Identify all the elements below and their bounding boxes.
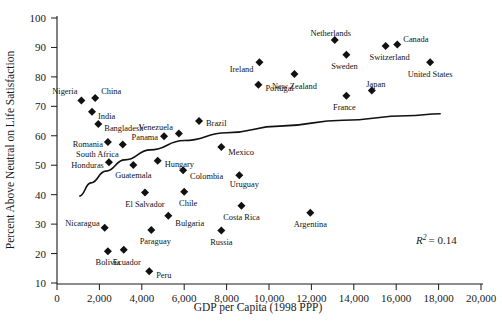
- y-tick-label: 50: [35, 159, 47, 171]
- data-point-label: Guatemala: [115, 171, 152, 180]
- data-point-label: Paraguay: [140, 237, 172, 246]
- data-point-label: Honduras: [71, 161, 104, 170]
- y-axis-title: Percent Above Neutral on Life Satisfacti…: [4, 51, 16, 250]
- data-point-label: South Africa: [76, 150, 119, 159]
- data-point-label: El Salvador: [125, 200, 165, 209]
- data-point-label: Hungary: [165, 160, 195, 169]
- data-point-label: Argentina: [294, 220, 328, 229]
- y-tick-label: 60: [35, 130, 47, 142]
- y-tick-label: 90: [35, 41, 47, 53]
- x-tick-label: 14,000: [339, 292, 370, 304]
- data-point-label: Netherlands: [310, 29, 350, 38]
- y-tick-label: 40: [35, 189, 47, 201]
- data-point-label: Venezuela: [138, 123, 173, 132]
- x-tick-label: 2,000: [87, 292, 112, 304]
- data-point-label: Mexico: [228, 148, 254, 157]
- data-point-label: Canada: [403, 35, 428, 44]
- data-point-label: United States: [408, 70, 453, 79]
- data-point-label: Sweden: [331, 62, 358, 71]
- data-point-label: Romania: [73, 140, 104, 149]
- data-point-label: Switzerland: [370, 53, 411, 62]
- data-point-label: Nigeria: [52, 87, 77, 96]
- data-point-label: France: [333, 103, 356, 112]
- data-point-label: Japan: [366, 80, 386, 89]
- r-squared-annotation: R2= 0.14: [415, 233, 457, 247]
- data-point-label: Uruguay: [230, 180, 260, 189]
- data-point-label: China: [101, 87, 121, 96]
- y-tick-label: 70: [35, 100, 47, 112]
- scatter-chart: 102030405060708090100 02,0004,0006,0008,…: [0, 0, 502, 332]
- y-tick-label: 10: [35, 277, 47, 289]
- x-tick-label: 20,000: [466, 292, 497, 304]
- chart-canvas: 102030405060708090100 02,0004,0006,0008,…: [0, 0, 502, 332]
- x-tick-label: 0: [54, 292, 60, 304]
- y-tick-label: 80: [35, 71, 47, 83]
- r-squared-label: R2= 0.14: [415, 233, 457, 247]
- data-point-label: Peru: [156, 271, 172, 280]
- data-point-label: Panama: [132, 133, 159, 142]
- y-tick-label: 100: [30, 12, 47, 24]
- data-point-label: Costa Rica: [223, 213, 260, 222]
- y-tick-label: 30: [35, 218, 47, 230]
- data-point-label: Ireland: [230, 65, 255, 74]
- x-tick-label: 16,000: [381, 292, 412, 304]
- data-point-label: Colombia: [190, 172, 223, 181]
- data-point-label: Bulgaria: [175, 219, 204, 228]
- data-point-label: Brazil: [206, 119, 227, 128]
- data-point-label: New Zealand: [272, 82, 318, 91]
- data-point-label: Nicaragua: [65, 219, 100, 228]
- x-tick-label: 4,000: [129, 292, 154, 304]
- data-point-label: Ecuador: [113, 258, 141, 267]
- x-axis-title: GDP per Capita (1998 PPP): [194, 301, 323, 314]
- y-tick-label: 20: [35, 248, 47, 260]
- data-point-label: India: [98, 112, 115, 121]
- x-tick-label: 18,000: [423, 292, 454, 304]
- data-point-label: Russia: [210, 238, 233, 247]
- data-point-label: Chile: [179, 199, 197, 208]
